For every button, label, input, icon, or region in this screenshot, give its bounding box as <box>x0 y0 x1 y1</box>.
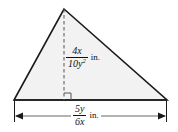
height-denominator-exponent: 2 <box>82 57 85 64</box>
height-fraction: 4x 10y2 <box>66 46 88 69</box>
height-units: in. <box>91 53 100 62</box>
base-dimension-label: 5y 6x in. <box>71 104 101 127</box>
geometry-figure: 4x 10y2 in. 5y 6x in. <box>0 0 178 132</box>
arrowhead-left-icon <box>15 113 23 120</box>
height-denominator: 10y2 <box>66 58 88 69</box>
base-fraction: 5y 6x <box>73 104 86 127</box>
height-numerator: 4x <box>70 46 83 57</box>
base-denominator-base: 6x <box>75 116 84 127</box>
height-denominator-base: 10y <box>68 58 82 69</box>
arrowhead-right-icon <box>158 113 166 120</box>
height-dimension-label: 4x 10y2 in. <box>66 46 100 69</box>
base-denominator: 6x <box>73 116 86 127</box>
base-numerator: 5y <box>73 104 86 115</box>
base-units: in. <box>89 111 98 120</box>
